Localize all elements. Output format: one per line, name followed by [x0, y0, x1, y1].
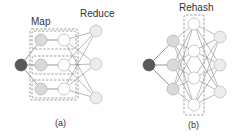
map-to-reduce-edge	[68, 35, 92, 60]
source-to-map-edge	[25, 45, 38, 61]
rehash-to-reduce-edge	[199, 27, 214, 35]
source-to-map-edge	[153, 45, 169, 61]
rehash-node	[188, 72, 200, 84]
map-node	[35, 34, 47, 46]
map-to-rehash-edge	[178, 54, 189, 61]
map-to-reduce-edge	[69, 68, 92, 86]
rehash-label: Rehash	[179, 2, 213, 13]
reduce-node	[214, 86, 226, 98]
map-node	[35, 83, 47, 95]
source-node	[143, 59, 155, 71]
map-node	[167, 59, 179, 71]
map-to-rehash-edge	[178, 28, 190, 37]
reduce-node	[90, 25, 102, 37]
reduce-node	[90, 58, 102, 70]
source-node	[15, 59, 27, 71]
map-node	[167, 83, 179, 95]
rehash-node	[188, 45, 200, 57]
reduce-label: Reduce	[80, 8, 115, 19]
source-to-map-edge	[153, 69, 169, 85]
map-to-reduce-edge	[70, 91, 90, 97]
map-label: Map	[31, 16, 51, 27]
rehash-to-reduce-edge	[197, 70, 216, 100]
caption-b: (b)	[188, 120, 199, 130]
map-output-node	[58, 83, 70, 95]
reduce-node	[214, 59, 226, 71]
reduce-node	[90, 92, 102, 104]
map-node	[167, 35, 179, 47]
source-to-map-edge	[25, 70, 37, 85]
mapreduce-rehash-diagram: Map Reduce (a) Rehash (b)	[0, 0, 241, 139]
panel-b-rehash: Rehash (b)	[143, 2, 226, 130]
rehash-node	[188, 18, 200, 30]
map-to-reduce-edge	[68, 69, 92, 93]
panel-a-mapreduce: Map Reduce (a)	[15, 8, 115, 128]
reduce-node	[214, 31, 226, 43]
map-output-node	[58, 59, 70, 71]
caption-a: (a)	[55, 118, 66, 128]
panel-b-edges	[153, 27, 218, 103]
map-to-reduce-edge	[70, 64, 90, 65]
map-to-rehash-edge	[178, 93, 189, 102]
map-to-reduce-edge	[70, 33, 90, 39]
map-node	[35, 59, 47, 71]
rehash-node	[188, 99, 200, 111]
map-output-node	[58, 34, 70, 46]
rehash-to-reduce-edge	[199, 95, 214, 103]
